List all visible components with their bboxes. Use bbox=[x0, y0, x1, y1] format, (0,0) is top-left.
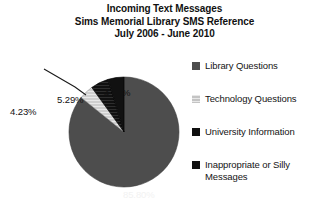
legend-item-university-information[interactable]: University Information bbox=[192, 126, 327, 138]
pie-label-technology-questions: 4.23% bbox=[10, 106, 36, 117]
chart-title: Incoming Text Messages Sims Memorial Lib… bbox=[0, 3, 329, 41]
legend-swatch-icon-library-questions bbox=[192, 62, 200, 70]
legend-swatch-icon-university-information bbox=[192, 128, 200, 136]
title-line-2: Sims Memorial Library SMS Reference bbox=[0, 16, 329, 29]
legend-item-inappropriate-messages[interactable]: Inappropriate or Silly Messages bbox=[192, 159, 327, 182]
pie-label-university-information: 5.29% bbox=[57, 94, 83, 105]
legend-label-university-information: University Information bbox=[205, 126, 295, 138]
legend-label-technology-questions: Technology Questions bbox=[205, 93, 296, 105]
legend-item-technology-questions[interactable]: Technology Questions bbox=[192, 93, 327, 105]
pie-label-inappropriate-messages: 4.68% bbox=[104, 87, 130, 98]
pie-chart: 4.23% 5.29% 4.68% 85.80% bbox=[0, 40, 190, 216]
chart-legend: Library Questions Technology Questions U… bbox=[192, 60, 327, 182]
pie-chart-svg bbox=[0, 40, 190, 216]
title-line-3: July 2006 - June 2010 bbox=[0, 28, 329, 41]
chart-page: Incoming Text Messages Sims Memorial Lib… bbox=[0, 0, 329, 216]
pie-label-library-questions: 85.80% bbox=[123, 189, 155, 200]
legend-swatch-icon-inappropriate-messages bbox=[192, 161, 200, 169]
legend-swatch-icon-technology-questions bbox=[192, 95, 200, 103]
legend-label-library-questions: Library Questions bbox=[205, 60, 278, 72]
legend-label-inappropriate-messages: Inappropriate or Silly Messages bbox=[205, 159, 327, 182]
leader-line-technology bbox=[44, 69, 86, 95]
legend-item-library-questions[interactable]: Library Questions bbox=[192, 60, 327, 72]
title-line-1: Incoming Text Messages bbox=[0, 3, 329, 16]
